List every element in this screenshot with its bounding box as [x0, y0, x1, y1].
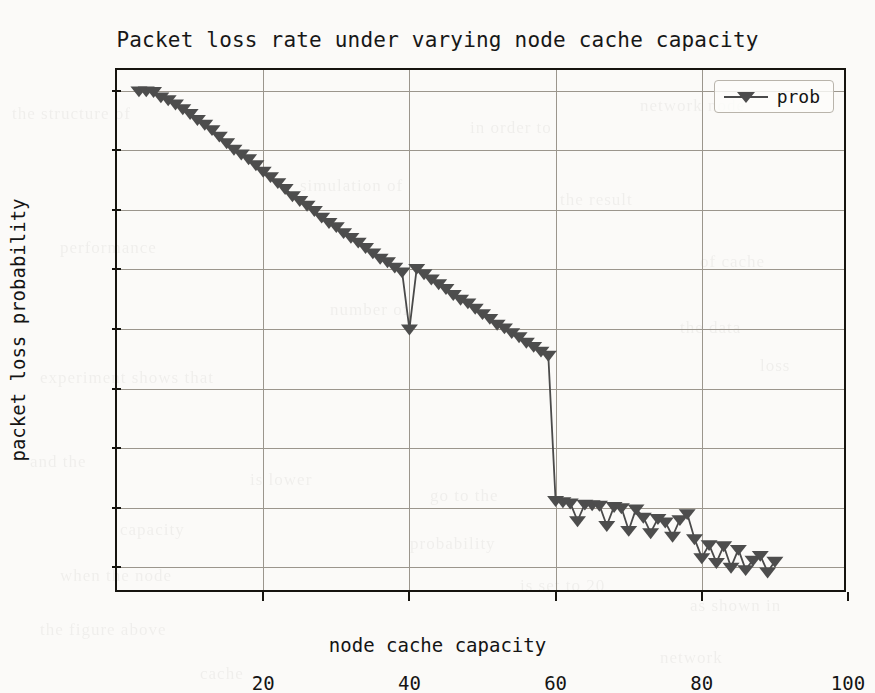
x-tick-label: 80 [690, 672, 713, 693]
x-tick-label: 20 [252, 672, 275, 693]
chart-title: Packet loss rate under varying node cach… [0, 28, 875, 52]
legend-label-prob: prob [777, 86, 820, 107]
legend[interactable]: prob [714, 80, 834, 113]
plot-area: 0.740.750.760.770.780.790.800.810.82 204… [115, 68, 846, 592]
data-series-prob [117, 70, 848, 594]
x-tick-label: 60 [544, 672, 567, 693]
x-tick-label: 100 [831, 672, 865, 693]
x-axis-label: node cache capacity [0, 634, 875, 656]
y-axis-label: packet loss probability [7, 198, 29, 461]
legend-marker-prob [724, 89, 768, 105]
chart-page: the structure ofin order tonetwork nodes… [0, 0, 875, 693]
x-tick-label: 40 [398, 672, 421, 693]
